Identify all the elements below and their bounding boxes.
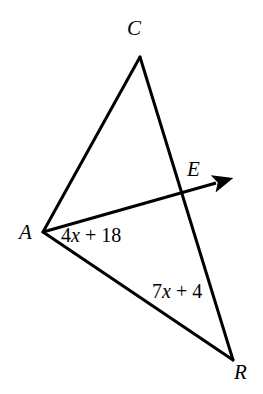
segment-CR	[140, 57, 233, 360]
coefficient-lower: 7	[152, 280, 162, 302]
vertex-label-R: R	[234, 362, 247, 383]
geometry-canvas	[0, 0, 263, 394]
segment-measure-label-upper: 4x + 18	[61, 225, 121, 245]
segment-AR	[43, 232, 233, 360]
operator-lower: +	[171, 280, 192, 302]
operator-upper: +	[80, 224, 101, 246]
coefficient-upper: 4	[61, 224, 71, 246]
variable-lower: x	[162, 280, 171, 302]
geometry-diagram: C E A R 4x + 18 7x + 4	[0, 0, 263, 394]
constant-lower: 4	[192, 280, 202, 302]
segment-measure-label-lower: 7x + 4	[152, 281, 202, 301]
vertex-label-A: A	[19, 222, 32, 243]
segment-CA	[43, 57, 140, 232]
variable-upper: x	[71, 224, 80, 246]
constant-upper: 18	[101, 224, 121, 246]
vertex-label-C: C	[127, 18, 141, 39]
vertex-label-E: E	[187, 159, 200, 180]
